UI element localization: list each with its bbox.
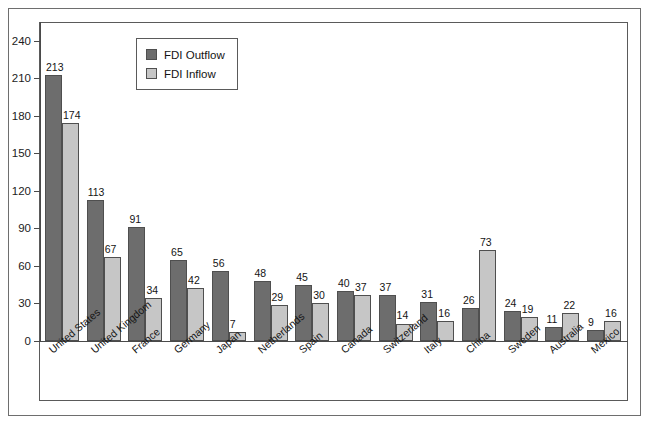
bar-value-label: 14 — [397, 310, 409, 321]
bar-value-label: 22 — [563, 300, 575, 311]
bar-value-label: 34 — [146, 285, 158, 296]
bar-value-label: 30 — [313, 290, 325, 301]
bar[interactable] — [337, 291, 354, 341]
bar-value-label: 42 — [188, 275, 200, 286]
legend-item-inflow[interactable]: FDI Inflow — [146, 64, 225, 83]
y-axis-tick-label: 60 — [18, 260, 31, 272]
bar[interactable] — [62, 123, 79, 341]
bar-value-label: 73 — [480, 237, 492, 248]
y-axis-tick-label: 180 — [12, 110, 31, 122]
bar[interactable] — [45, 75, 62, 341]
bar-value-label: 113 — [88, 187, 105, 198]
bar-value-label: 48 — [255, 268, 267, 279]
legend-label-outflow: FDI Outflow — [164, 49, 225, 61]
bar-value-label: 45 — [296, 272, 308, 283]
y-axis-tick-label: 90 — [18, 222, 31, 234]
bar-value-label: 213 — [46, 62, 64, 73]
legend-label-inflow: FDI Inflow — [164, 68, 216, 80]
bar[interactable] — [254, 281, 271, 341]
bar-value-label: 37 — [355, 282, 367, 293]
bar-value-label: 26 — [463, 295, 475, 306]
bar-value-label: 65 — [171, 247, 183, 258]
bar-value-label: 91 — [129, 214, 141, 225]
bar-value-label: 174 — [63, 110, 81, 121]
bar-value-label: 9 — [588, 317, 594, 328]
bar-value-label: 19 — [522, 304, 534, 315]
y-axis-tick-label: 0 — [25, 335, 31, 347]
bar-value-label: 56 — [213, 258, 225, 269]
bar[interactable] — [212, 271, 229, 341]
bar[interactable] — [170, 260, 187, 341]
bar-value-label: 16 — [605, 308, 617, 319]
y-axis-tick-label: 240 — [12, 35, 31, 47]
legend-item-outflow[interactable]: FDI Outflow — [146, 45, 225, 64]
bar-value-label: 67 — [105, 244, 117, 255]
bars-layer — [40, 22, 628, 341]
bar[interactable] — [479, 250, 496, 341]
figure: 0306090120150180210240 21317411367913465… — [0, 0, 653, 426]
bar-value-label: 29 — [272, 292, 284, 303]
y-axis-tick-mark — [34, 341, 41, 342]
legend: FDI Outflow FDI Inflow — [136, 38, 238, 90]
bar-value-label: 24 — [505, 298, 517, 309]
bar-value-label: 40 — [338, 278, 350, 289]
y-axis-tick-label: 210 — [12, 72, 31, 84]
y-axis-tick-label: 30 — [18, 297, 31, 309]
bar-value-label: 37 — [380, 282, 392, 293]
bar-value-label: 11 — [546, 314, 557, 325]
legend-swatch-inflow — [146, 68, 157, 79]
x-axis-line — [40, 341, 628, 342]
bar-value-label: 16 — [438, 308, 450, 319]
bar-value-label: 31 — [421, 289, 433, 300]
y-axis-tick-label: 150 — [12, 147, 31, 159]
y-axis-tick-label: 120 — [12, 185, 31, 197]
legend-swatch-outflow — [146, 49, 157, 60]
